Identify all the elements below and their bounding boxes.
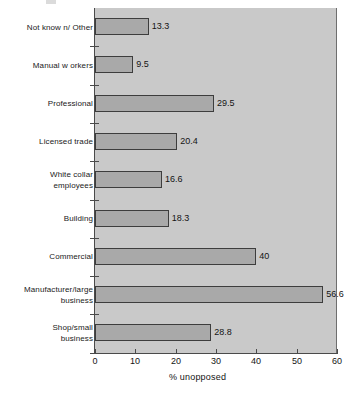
category-label: Commercial bbox=[5, 238, 93, 276]
bar bbox=[95, 286, 323, 303]
category-label-line: Shop/small bbox=[52, 322, 93, 333]
category-label: Professional bbox=[5, 85, 93, 123]
bar bbox=[95, 133, 177, 150]
bar-row: Not know n/ Other13.3 bbox=[0, 8, 353, 46]
category-label: Shop/smallbusiness bbox=[5, 314, 93, 352]
bar bbox=[95, 171, 162, 188]
y-axis-tick bbox=[90, 200, 99, 201]
category-label-line: Licensed trade bbox=[39, 136, 93, 147]
bar-value-label: 16.6 bbox=[165, 172, 183, 187]
bar-row: Manual w orkers9.5 bbox=[0, 46, 353, 84]
bar-value-label: 13.3 bbox=[152, 19, 170, 34]
bar-row: White collaremployees16.6 bbox=[0, 161, 353, 199]
x-axis-title: % unopposed bbox=[0, 372, 353, 382]
x-axis-tick-label: 40 bbox=[241, 356, 271, 366]
category-label-line: Manufacturer/large bbox=[24, 284, 93, 295]
y-axis-tick bbox=[90, 123, 99, 124]
bar bbox=[95, 18, 149, 35]
x-axis-tick-label: 0 bbox=[80, 356, 110, 366]
x-axis-tick-label: 10 bbox=[120, 356, 150, 366]
x-axis-tick bbox=[176, 349, 177, 354]
category-label-line: Commercial bbox=[49, 251, 93, 262]
bar-value-label: 56.6 bbox=[326, 287, 344, 302]
x-axis-tick-label: 30 bbox=[201, 356, 231, 366]
x-axis-tick-label: 20 bbox=[161, 356, 191, 366]
y-axis-tick bbox=[90, 276, 99, 277]
y-axis-tick bbox=[90, 46, 99, 47]
category-label: White collaremployees bbox=[5, 161, 93, 199]
bar-value-label: 20.4 bbox=[180, 134, 198, 149]
bar-row: Commercial40 bbox=[0, 238, 353, 276]
y-axis-tick bbox=[90, 238, 99, 239]
y-axis-tick bbox=[90, 314, 99, 315]
bar-row: Building18.3 bbox=[0, 200, 353, 238]
category-label-line: White collar bbox=[50, 169, 93, 180]
category-label-line: business bbox=[61, 295, 93, 306]
bar bbox=[95, 248, 256, 265]
x-axis-tick bbox=[337, 349, 338, 354]
x-axis-tick bbox=[95, 349, 96, 354]
category-label: Manufacturer/largebusiness bbox=[5, 276, 93, 314]
bar-row: Professional29.5 bbox=[0, 85, 353, 123]
x-axis-tick-label: 50 bbox=[282, 356, 312, 366]
bar bbox=[95, 95, 214, 112]
bar-value-label: 40 bbox=[259, 249, 269, 264]
y-axis-tick bbox=[90, 161, 99, 162]
x-axis-tick bbox=[216, 349, 217, 354]
bar-value-label: 9.5 bbox=[136, 57, 149, 72]
category-label: Licensed trade bbox=[5, 123, 93, 161]
category-label: Manual w orkers bbox=[5, 46, 93, 84]
y-axis-tick bbox=[90, 85, 99, 86]
bar-value-label: 18.3 bbox=[172, 211, 190, 226]
category-label-line: business bbox=[61, 333, 93, 344]
bar-row: Manufacturer/largebusiness56.6 bbox=[0, 276, 353, 314]
x-axis-tick-label: 60 bbox=[322, 356, 352, 366]
scan-artifact bbox=[46, 0, 56, 4]
category-label: Building bbox=[5, 200, 93, 238]
category-label-line: Not know n/ Other bbox=[27, 22, 93, 33]
bar-chart: Not know n/ Other13.3Manual w orkers9.5P… bbox=[0, 0, 353, 394]
category-label-line: employees bbox=[53, 180, 93, 191]
bar bbox=[95, 324, 211, 341]
x-axis-tick bbox=[256, 349, 257, 354]
category-label-line: Building bbox=[64, 213, 93, 224]
bar-row: Licensed trade20.4 bbox=[0, 123, 353, 161]
bar-value-label: 29.5 bbox=[217, 96, 235, 111]
bar bbox=[95, 56, 133, 73]
x-axis-tick bbox=[297, 349, 298, 354]
bar-row: Shop/smallbusiness28.8 bbox=[0, 314, 353, 352]
x-axis-title-text: % unopposed bbox=[127, 372, 226, 382]
category-label-line: Professional bbox=[48, 98, 93, 109]
bar bbox=[95, 210, 169, 227]
x-axis-tick bbox=[135, 349, 136, 354]
category-label: Not know n/ Other bbox=[5, 8, 93, 46]
bar-value-label: 28.8 bbox=[214, 325, 232, 340]
category-label-line: Manual w orkers bbox=[33, 60, 93, 71]
